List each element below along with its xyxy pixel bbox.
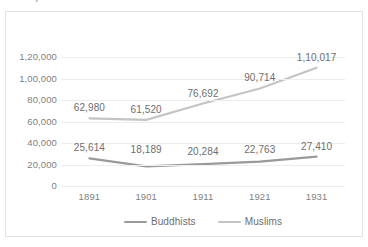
- y-axis-tick-label: 1,20,000: [1, 52, 57, 62]
- data-point-label: 1,10,017: [287, 52, 347, 63]
- line-chart: Population 1,20,0001,00,00080,00060,0004…: [0, 0, 368, 247]
- legend-item-buddhists[interactable]: Buddhists: [124, 216, 196, 228]
- plot-area: [61, 57, 345, 186]
- data-point-label: 76,692: [173, 88, 233, 99]
- data-point-label: 27,410: [287, 141, 347, 152]
- gridline: [61, 165, 345, 166]
- legend-swatch: [218, 221, 241, 223]
- legend-swatch: [124, 221, 147, 223]
- y-axis-tick-label: 1,00,000: [1, 74, 57, 84]
- data-point-label: 62,980: [59, 102, 119, 113]
- y-axis-tick-label: 80,000: [1, 95, 57, 105]
- y-axis-tick-label: 60,000: [1, 117, 57, 127]
- x-axis: 18911901191119211931: [61, 191, 345, 205]
- y-axis-tick-label: 40,000: [1, 138, 57, 148]
- x-axis-tick-label: 1891: [66, 191, 112, 203]
- chart-title-fragment: Population: [22, 0, 82, 2]
- chart-legend: BuddhistsMuslims: [61, 214, 345, 230]
- x-axis-tick-label: 1921: [237, 191, 283, 203]
- legend-label: Muslims: [245, 216, 282, 228]
- legend-item-muslims[interactable]: Muslims: [218, 216, 282, 228]
- gridline: [61, 79, 345, 80]
- data-point-label: 18,189: [116, 144, 176, 155]
- y-axis-tick-label: 0: [1, 181, 57, 191]
- gridline: [61, 186, 345, 187]
- data-point-label: 61,520: [116, 104, 176, 115]
- x-axis-tick-label: 1931: [294, 191, 340, 203]
- y-axis: 1,20,0001,00,00080,00060,00040,00020,000…: [0, 57, 57, 186]
- data-point-label: 20,284: [173, 146, 233, 157]
- gridline: [61, 100, 345, 101]
- data-point-label: 25,614: [59, 142, 119, 153]
- data-point-label: 90,714: [230, 72, 290, 83]
- x-axis-tick-label: 1911: [180, 191, 226, 203]
- data-point-label: 22,763: [230, 144, 290, 155]
- gridline: [61, 122, 345, 123]
- y-axis-tick-label: 20,000: [1, 160, 57, 170]
- x-axis-tick-label: 1901: [123, 191, 169, 203]
- legend-label: Buddhists: [151, 216, 196, 228]
